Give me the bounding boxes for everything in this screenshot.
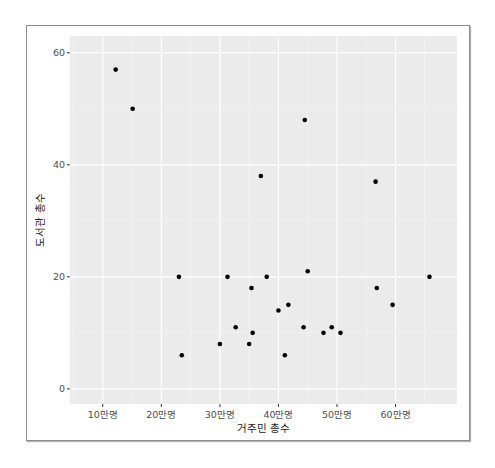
x-tick-label: 20만명: [146, 409, 176, 420]
y-axis-title: 도서관 총수: [34, 193, 46, 246]
y-axis: 0204060도서관 총수: [34, 47, 70, 394]
data-point: [301, 325, 306, 330]
data-point: [233, 325, 238, 330]
x-tick-label: 30만명: [205, 409, 235, 420]
x-tick-label: 10만명: [88, 409, 118, 420]
data-point: [427, 275, 432, 280]
y-tick-label: 60: [53, 47, 65, 58]
data-point: [113, 67, 118, 72]
data-point: [225, 275, 230, 280]
data-point: [180, 353, 185, 358]
data-point: [374, 286, 379, 291]
scatter-plot: 10만명20만명30만명40만명50만명60만명거주민 총수0204060도서관…: [0, 0, 495, 468]
data-point: [373, 179, 378, 184]
data-point: [283, 353, 288, 358]
x-tick-label: 50만명: [322, 409, 352, 420]
y-tick-label: 20: [53, 271, 65, 282]
data-point: [390, 303, 395, 308]
data-point: [247, 342, 252, 347]
x-tick-label: 60만명: [380, 409, 410, 420]
data-point: [321, 331, 326, 336]
y-tick-label: 40: [53, 159, 65, 170]
data-point: [259, 174, 264, 179]
data-point: [276, 308, 281, 313]
data-point: [338, 331, 343, 336]
plot-panel: [70, 36, 457, 404]
x-axis: 10만명20만명30만명40만명50만명60만명거주민 총수: [88, 404, 411, 434]
data-point: [249, 286, 254, 291]
data-point: [302, 118, 307, 123]
data-point: [264, 275, 269, 280]
y-tick-label: 0: [59, 383, 65, 394]
data-point: [329, 325, 334, 330]
data-point: [130, 107, 135, 112]
data-point: [286, 303, 291, 308]
data-point: [218, 342, 223, 347]
data-point: [305, 269, 310, 274]
x-tick-label: 40만명: [263, 409, 293, 420]
x-axis-title: 거주민 총수: [237, 422, 290, 434]
data-point: [177, 275, 182, 280]
data-point: [250, 331, 255, 336]
